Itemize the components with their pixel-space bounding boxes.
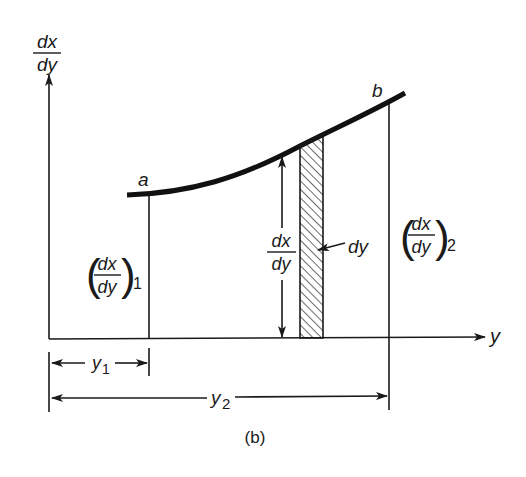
svg-text:dx: dx — [97, 254, 117, 274]
svg-text:2: 2 — [447, 237, 456, 254]
axis-label-numerator: dx — [37, 31, 59, 52]
dimension-y2: y 2 — [52, 387, 387, 412]
svg-text:dy: dy — [411, 237, 431, 257]
svg-text:dx: dx — [411, 214, 431, 234]
svg-text:1: 1 — [102, 361, 110, 377]
curve-ab: a b — [127, 80, 405, 195]
point-b-label: b — [372, 80, 383, 101]
svg-text:dx: dx — [271, 231, 291, 251]
ordinate-a-label: ( dx dy ) 1 — [86, 250, 142, 299]
dimension-y1: y 1 — [49, 348, 149, 412]
strip-height-dimension: dx dy — [267, 157, 296, 337]
integral-area-diagram: dx dy y a b ( dx dy ) 1 ( dx dy ) 2 — [0, 0, 526, 477]
strip-width-label: dy — [318, 236, 370, 257]
svg-text:dy: dy — [271, 254, 291, 274]
ordinate-b-label: ( dx dy ) 2 — [400, 212, 456, 261]
horizontal-axis-label: y — [488, 325, 501, 347]
axis-label-denominator: dy — [37, 54, 59, 75]
figure-caption: (b) — [245, 428, 266, 447]
svg-text:dy: dy — [97, 277, 117, 297]
horizontal-axis: y — [49, 325, 501, 347]
svg-text:1: 1 — [133, 275, 142, 292]
point-a-label: a — [138, 169, 149, 190]
svg-text:y: y — [209, 387, 222, 408]
svg-text:2: 2 — [222, 395, 230, 412]
vertical-axis-label: dx dy — [33, 31, 61, 75]
svg-text:dy: dy — [348, 236, 370, 257]
svg-text:y: y — [90, 353, 102, 373]
hatched-strip — [300, 134, 323, 338]
